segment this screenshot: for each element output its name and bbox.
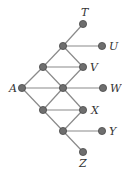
node-label-A: A — [8, 82, 17, 95]
node-label-U: U — [109, 40, 119, 53]
node-V — [79, 63, 86, 70]
edge-X-n5 — [63, 110, 83, 131]
edge-n3-X — [63, 88, 83, 110]
node-W — [99, 84, 106, 91]
node-n3 — [59, 84, 66, 91]
node-label-Y: Y — [109, 125, 118, 138]
node-T — [79, 20, 86, 27]
edge-A-n4 — [22, 88, 43, 110]
edge-n1-V — [63, 46, 83, 67]
edge-n1-n2 — [43, 46, 63, 67]
edge-n2-n3 — [43, 67, 63, 88]
node-label-T: T — [81, 6, 90, 19]
edge-n5-Z — [63, 131, 83, 152]
node-label-W: W — [110, 82, 122, 95]
node-A — [18, 84, 25, 91]
node-label-Z: Z — [78, 157, 87, 170]
node-X — [79, 106, 86, 113]
edge-n2-A — [22, 67, 43, 88]
node-n4 — [39, 106, 46, 113]
node-label-V: V — [90, 61, 99, 74]
node-n2 — [39, 63, 46, 70]
node-n1 — [59, 42, 66, 49]
edge-V-n3 — [63, 67, 83, 88]
node-Y — [98, 127, 105, 134]
node-U — [98, 42, 105, 49]
node-Z — [79, 148, 86, 155]
edge-n1-T — [63, 24, 83, 46]
node-label-X: X — [90, 104, 100, 117]
edge-n4-n5 — [43, 110, 63, 131]
edge-n3-n4 — [43, 88, 63, 110]
node-n5 — [59, 127, 66, 134]
graph-diagram: TUVAWXYZ — [0, 0, 122, 178]
